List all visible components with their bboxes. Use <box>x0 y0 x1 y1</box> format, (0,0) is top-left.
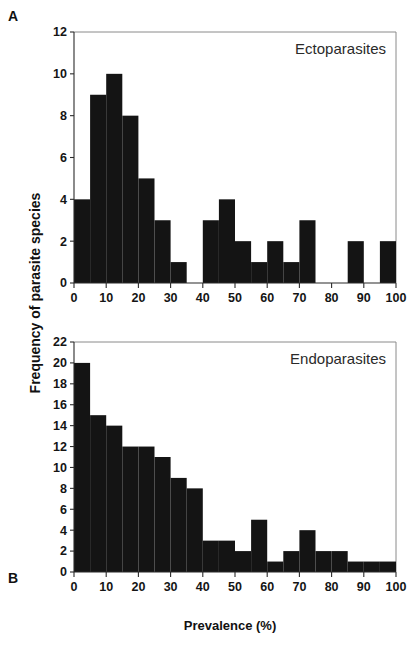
chart-panel-b: 0246810121416182022010203040506070809010… <box>0 320 409 620</box>
x-tick-label: 40 <box>196 580 210 594</box>
x-tick-label: 90 <box>357 291 371 305</box>
histogram-bar <box>106 426 122 572</box>
x-tick-label: 40 <box>196 291 210 305</box>
y-tick-label: 0 <box>60 565 67 579</box>
y-tick-label: 2 <box>60 235 67 249</box>
x-tick-label: 70 <box>292 291 306 305</box>
histogram-bar <box>122 116 138 283</box>
histogram-bar <box>74 363 90 572</box>
y-tick-label: 10 <box>53 461 67 475</box>
histogram-bar <box>219 199 235 283</box>
histogram-bar <box>138 178 154 283</box>
histogram-bar <box>283 551 299 572</box>
x-tick-label: 0 <box>71 291 78 305</box>
x-tick-label: 20 <box>131 580 145 594</box>
histogram-bar <box>348 241 364 283</box>
x-tick-label: 20 <box>131 291 145 305</box>
histogram-bar <box>90 415 106 572</box>
x-tick-label: 80 <box>325 580 339 594</box>
histogram-bar <box>251 262 267 283</box>
x-tick-label: 60 <box>260 291 274 305</box>
x-tick-label: 100 <box>386 291 407 305</box>
histogram-bar <box>122 447 138 572</box>
histogram-bar <box>187 488 203 572</box>
histogram-bar <box>155 457 171 572</box>
histogram-bar <box>155 220 171 283</box>
histogram-bar <box>299 220 315 283</box>
histogram-bar <box>203 220 219 283</box>
y-tick-label: 2 <box>60 544 67 558</box>
x-tick-label: 10 <box>99 580 113 594</box>
x-tick-label: 50 <box>228 291 242 305</box>
histogram-bar <box>138 447 154 572</box>
y-tick-label: 8 <box>60 482 67 496</box>
histogram-bar <box>267 562 283 572</box>
histogram-bar <box>380 562 396 572</box>
histogram-bar <box>251 520 267 572</box>
histogram-bar <box>235 551 251 572</box>
y-tick-label: 20 <box>53 356 67 370</box>
y-tick-label: 12 <box>53 440 67 454</box>
y-tick-label: 18 <box>53 377 67 391</box>
histogram-bar <box>74 199 90 283</box>
histogram-bar <box>348 562 364 572</box>
y-tick-label: 12 <box>53 25 67 39</box>
histogram-bar <box>203 541 219 572</box>
y-tick-label: 16 <box>53 398 67 412</box>
figure-histogram-pair: A B Frequency of parasite species Preval… <box>0 0 409 650</box>
histogram-bar <box>267 241 283 283</box>
x-tick-label: 0 <box>71 580 78 594</box>
y-tick-label: 22 <box>53 335 67 349</box>
y-tick-label: 4 <box>60 524 67 538</box>
histogram-ectoparasites: 0246810120102030405060708090100Ectoparas… <box>0 0 409 320</box>
histogram-bar <box>106 74 122 283</box>
histogram-bar <box>332 551 348 572</box>
y-tick-label: 14 <box>53 419 67 433</box>
x-tick-label: 60 <box>260 580 274 594</box>
series-annotation-label: Ectoparasites <box>295 40 386 57</box>
histogram-bar <box>316 551 332 572</box>
histogram-bar <box>171 262 187 283</box>
histogram-bar <box>299 530 315 572</box>
chart-panel-a: 0246810120102030405060708090100Ectoparas… <box>0 0 409 320</box>
histogram-bar <box>219 541 235 572</box>
histogram-endoparasites: 0246810121416182022010203040506070809010… <box>0 320 409 620</box>
y-tick-label: 0 <box>60 276 67 290</box>
y-tick-label: 10 <box>53 67 67 81</box>
series-annotation-label: Endoparasites <box>290 350 386 367</box>
y-tick-label: 4 <box>60 193 67 207</box>
histogram-bar <box>380 241 396 283</box>
y-tick-label: 6 <box>60 503 67 517</box>
x-tick-label: 30 <box>164 580 178 594</box>
x-tick-label: 30 <box>164 291 178 305</box>
histogram-bar <box>283 262 299 283</box>
histogram-bar <box>235 241 251 283</box>
x-tick-label: 10 <box>99 291 113 305</box>
histogram-bar <box>171 478 187 572</box>
y-tick-label: 6 <box>60 151 67 165</box>
x-tick-label: 70 <box>292 580 306 594</box>
x-tick-label: 80 <box>325 291 339 305</box>
y-tick-label: 8 <box>60 109 67 123</box>
x-tick-label: 100 <box>386 580 407 594</box>
histogram-bar <box>90 95 106 283</box>
histogram-bar <box>364 562 380 572</box>
x-axis-title: Prevalence (%) <box>60 618 400 633</box>
x-tick-label: 50 <box>228 580 242 594</box>
x-tick-label: 90 <box>357 580 371 594</box>
